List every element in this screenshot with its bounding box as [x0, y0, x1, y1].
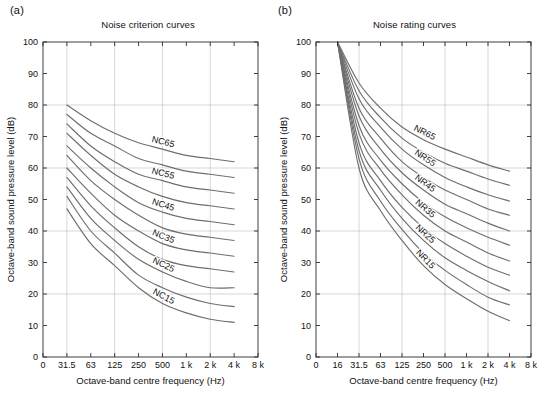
y-tick-label: 40 [301, 226, 311, 236]
x-axis-title: Octave-band centre frequency (Hz) [76, 375, 224, 386]
x-tick-label: 63 [86, 360, 96, 370]
x-tick-label: 250 [131, 360, 146, 370]
y-tick-label: 80 [28, 100, 38, 110]
y-tick-label: 100 [296, 37, 311, 47]
curve-label-nc15: NC15 [151, 287, 176, 307]
x-axis-title: Octave-band centre frequency (Hz) [349, 375, 497, 386]
x-tick-label: 4 k [503, 360, 516, 370]
curve-nc45 [67, 146, 234, 225]
x-tick-label: 31.5 [350, 360, 368, 370]
y-axis-title: Octave-band sound pressure level (dB) [278, 117, 289, 282]
x-tick-label: 0 [313, 360, 318, 370]
x-tick-label: 500 [437, 360, 452, 370]
x-tick-label: 500 [155, 360, 170, 370]
x-tick-label: 63 [375, 360, 385, 370]
curve-label-nc35: NC35 [151, 227, 176, 245]
y-tick-label: 40 [28, 226, 38, 236]
y-tick-label: 90 [28, 69, 38, 79]
y-tick-label: 60 [301, 163, 311, 173]
x-tick-label: 2 k [204, 360, 217, 370]
grid [43, 42, 258, 357]
x-tick-label: 8 k [252, 360, 265, 370]
x-tick-label: 250 [416, 360, 431, 370]
y-tick-label: 0 [33, 352, 38, 362]
y-tick-label: 50 [28, 195, 38, 205]
curve-nc65 [67, 105, 234, 162]
y-tick-label: 50 [301, 195, 311, 205]
curve-nc20 [67, 196, 234, 306]
y-tick-label: 90 [301, 69, 311, 79]
y-tick-label: 30 [301, 258, 311, 268]
y-tick-label: 0 [306, 352, 311, 362]
y-tick-label: 10 [28, 321, 38, 331]
panel-a-plot: 031.5631252505001 k2 k4 k8 k010203040506… [0, 0, 272, 405]
x-tick-label: 125 [107, 360, 122, 370]
y-tick-label: 30 [28, 258, 38, 268]
curve-label-nr65: NR65 [412, 123, 437, 142]
y-tick-label: 70 [301, 132, 311, 142]
curve-label-nc25: NC25 [151, 255, 176, 274]
y-tick-label: 20 [301, 289, 311, 299]
axis-frame [43, 42, 258, 357]
curve-group [67, 105, 234, 322]
y-axis-title: Octave-band sound pressure level (dB) [5, 117, 16, 282]
x-tick-label: 2 k [482, 360, 495, 370]
curve-labels: NC65NC65NC55NC55NC45NC45NC35NC35NC25NC25… [151, 134, 177, 306]
x-tick-label: 4 k [228, 360, 241, 370]
y-tick-label: 80 [301, 100, 311, 110]
y-tick-label: 20 [28, 289, 38, 299]
panel-a: (a) Noise criterion curves 031.563125250… [0, 0, 272, 405]
x-tick-label: 1 k [460, 360, 473, 370]
x-tick-label: 16 [332, 360, 342, 370]
panel-b-plot: 01631.5631252505001 k2 k4 k8 k0102030405… [272, 0, 545, 405]
y-tick-label: 60 [28, 163, 38, 173]
x-tick-label: 0 [40, 360, 45, 370]
curve-label-nr55: NR55 [413, 147, 438, 168]
x-tick-label: 1 k [180, 360, 193, 370]
y-tick-label: 10 [301, 321, 311, 331]
noise-curves-figure: (a) Noise criterion curves 031.563125250… [0, 0, 545, 405]
x-tick-label: 8 k [525, 360, 538, 370]
y-tick-label: 70 [28, 132, 38, 142]
x-tick-label: 31.5 [58, 360, 76, 370]
y-tick-label: 100 [23, 37, 38, 47]
panel-b: (b) Noise rating curves 01631.5631252505… [272, 0, 545, 405]
curve-nc50 [67, 133, 234, 209]
x-tick-label: 125 [394, 360, 409, 370]
ticks: 031.5631252505001 k2 k4 k8 k010203040506… [23, 37, 265, 370]
